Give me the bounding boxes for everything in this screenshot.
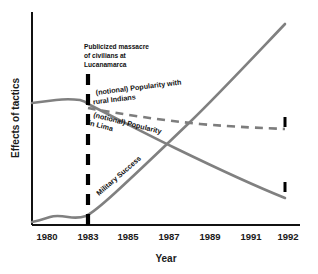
x-tick-label-1989: 1989 <box>199 231 220 242</box>
x-tick-label-1983: 1983 <box>77 231 98 242</box>
series-label-rural-indians-line-1: (notional) Popularity with <box>95 78 182 97</box>
series-line-military-success <box>32 24 285 222</box>
annotation-line-2: of civilians at <box>84 52 127 59</box>
series-line-popularity-lima <box>32 99 285 198</box>
x-tick-label-1985: 1985 <box>117 231 139 242</box>
chart-canvas: 1980 1983 1985 1987 1989 1991 1992 Year … <box>0 0 318 274</box>
x-tick-label-1992: 1992 <box>277 231 298 242</box>
x-tick-label-1980: 1980 <box>36 231 57 242</box>
x-tick-label-1987: 1987 <box>158 231 179 242</box>
chart-container: 1980 1983 1985 1987 1989 1991 1992 Year … <box>0 0 318 274</box>
series-label-rural-indians: (notional) Popularity with rural Indians <box>91 78 183 107</box>
x-tick-label-1991: 1991 <box>240 231 262 242</box>
y-axis-title: Effects of tactics <box>10 78 21 158</box>
annotation-line-1: Publicized massacre <box>84 43 149 50</box>
series-label-popularity-lima: (notional) Popularity in Lima <box>87 109 162 144</box>
x-axis-title: Year <box>155 253 176 264</box>
annotation-line-3: Lucanamarca <box>84 61 127 68</box>
